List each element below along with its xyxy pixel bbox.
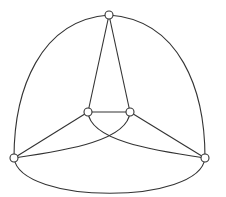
node-inner-left — [84, 108, 92, 116]
edge-inner-right-outer-right — [130, 112, 205, 158]
edge-outer-left-outer-right — [14, 158, 205, 193]
graph-diagram — [0, 0, 226, 197]
node-outer-right — [201, 154, 209, 162]
edge-inner-right-outer-left — [14, 112, 130, 158]
edge-top-inner-right — [109, 15, 130, 112]
edge-inner-left-outer-right — [88, 112, 205, 158]
edge-top-outer-right — [109, 15, 205, 158]
edge-inner-left-outer-left — [14, 112, 88, 158]
node-inner-right — [126, 108, 134, 116]
edge-top-outer-left — [14, 15, 109, 158]
node-top — [105, 11, 113, 19]
edge-top-inner-left — [88, 15, 109, 112]
node-outer-left — [10, 154, 18, 162]
